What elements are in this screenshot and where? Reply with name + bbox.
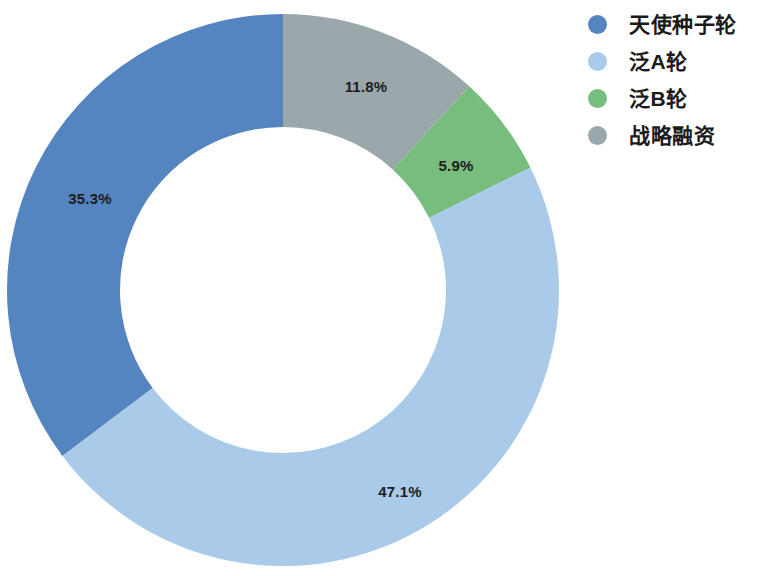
legend-label-angel-seed: 天使种子轮 — [629, 14, 737, 35]
donut-slice-group — [7, 14, 559, 566]
legend-swatch-strategic-icon — [588, 126, 607, 145]
chart-legend: 天使种子轮 泛A轮 泛B轮 战略融资 — [588, 6, 767, 154]
donut-chart: 35.3% 47.1% 5.9% 11.8% — [0, 0, 570, 576]
legend-item-strategic[interactable]: 战略融资 — [588, 117, 767, 154]
legend-label-series-a: 泛A轮 — [629, 51, 688, 72]
legend-item-angel-seed[interactable]: 天使种子轮 — [588, 6, 767, 43]
donut-slice[interactable] — [7, 14, 283, 456]
legend-swatch-angel-seed-icon — [588, 15, 607, 34]
legend-swatch-series-a-icon — [588, 52, 607, 71]
legend-item-series-a[interactable]: 泛A轮 — [588, 43, 767, 80]
legend-item-series-b[interactable]: 泛B轮 — [588, 80, 767, 117]
legend-swatch-series-b-icon — [588, 89, 607, 108]
donut-chart-svg — [0, 0, 570, 576]
legend-label-strategic: 战略融资 — [629, 125, 715, 146]
legend-label-series-b: 泛B轮 — [629, 88, 688, 109]
donut-chart-page: 35.3% 47.1% 5.9% 11.8% 天使种子轮 泛A轮 泛B轮 战略融… — [0, 0, 767, 576]
